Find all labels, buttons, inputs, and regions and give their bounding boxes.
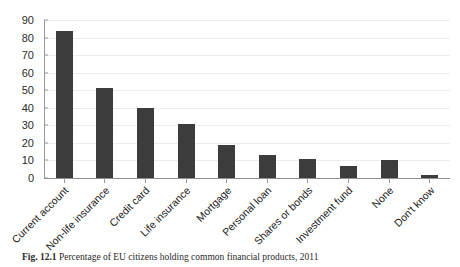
x-label-slot: Don't know (409, 184, 450, 242)
bar (137, 108, 154, 178)
y-axis-tick-label: 30 (22, 119, 34, 131)
bar-slot (206, 20, 247, 178)
bar-slot (247, 20, 288, 178)
y-axis-tickmark (44, 142, 48, 143)
figure: 0102030405060708090 Current accountNon-l… (0, 0, 460, 267)
bar-slot (44, 20, 85, 178)
y-axis-tick-label: 70 (22, 49, 34, 61)
y-axis-tickmark (44, 125, 48, 126)
x-tickmark-slot (328, 179, 369, 183)
x-axis-tickmark (145, 179, 146, 183)
x-axis-tickmark (429, 179, 430, 183)
x-tickmark-slot (206, 179, 247, 183)
x-axis-tick-label: None (369, 184, 395, 210)
y-axis-tick-label: 90 (22, 14, 34, 26)
y-axis-tick-label: 40 (22, 102, 34, 114)
y-axis-tickmark (44, 72, 48, 73)
bar-slot (125, 20, 166, 178)
y-axis-tickmark (44, 37, 48, 38)
x-tickmark-slot (369, 179, 410, 183)
x-tickmark-slot (125, 179, 166, 183)
x-axis-labels: Current accountNon-life insuranceCredit … (44, 184, 450, 242)
y-axis-tick-label: 50 (22, 84, 34, 96)
x-label-slot: Investment fund (328, 184, 369, 242)
bar-slot (288, 20, 329, 178)
y-axis-tick-label: 10 (22, 154, 34, 166)
x-axis-tickmark (64, 179, 65, 183)
x-axis-tickmark (104, 179, 105, 183)
x-axis-tickmarks (44, 179, 450, 183)
y-axis-tick-label: 0 (28, 172, 34, 184)
x-tickmark-slot (409, 179, 450, 183)
y-axis-tickmark (44, 90, 48, 91)
x-axis-tickmark (389, 179, 390, 183)
bar (299, 159, 316, 178)
y-axis-tick-label: 60 (22, 67, 34, 79)
bar (218, 145, 235, 178)
bar-slot (85, 20, 126, 178)
y-axis-line (44, 20, 45, 178)
bar-series (44, 20, 450, 178)
bar-slot (409, 20, 450, 178)
x-tickmark-slot (85, 179, 126, 183)
x-tickmark-slot (44, 179, 85, 183)
bar (96, 88, 113, 178)
bar (178, 124, 195, 178)
caption-text: Percentage of EU citizens holding common… (59, 252, 319, 262)
bar-chart: 0102030405060708090 Current accountNon-l… (0, 6, 460, 236)
bar-slot (328, 20, 369, 178)
caption-label: Fig. 12.1 (22, 252, 57, 262)
y-axis-tickmark (44, 55, 48, 56)
y-axis-ticks: 0102030405060708090 (0, 20, 40, 178)
bar-slot (166, 20, 207, 178)
figure-caption: Fig. 12.1 Percentage of EU citizens hold… (22, 252, 442, 262)
y-axis-tickmark (44, 160, 48, 161)
plot-area (44, 20, 450, 178)
bar (56, 31, 73, 178)
x-tickmark-slot (288, 179, 329, 183)
x-axis-tickmark (307, 179, 308, 183)
x-tickmark-slot (247, 179, 288, 183)
x-tickmark-slot (166, 179, 207, 183)
y-axis-tick-label: 80 (22, 32, 34, 44)
bar-slot (369, 20, 410, 178)
x-axis-tickmark (267, 179, 268, 183)
y-axis-tick-label: 20 (22, 137, 34, 149)
x-axis-tickmark (348, 179, 349, 183)
x-axis-tickmark (226, 179, 227, 183)
y-axis-tickmark (44, 20, 48, 21)
x-axis-tickmark (186, 179, 187, 183)
bar (259, 155, 276, 178)
bar (381, 160, 398, 178)
y-axis-tickmark (44, 107, 48, 108)
bar (340, 166, 357, 178)
